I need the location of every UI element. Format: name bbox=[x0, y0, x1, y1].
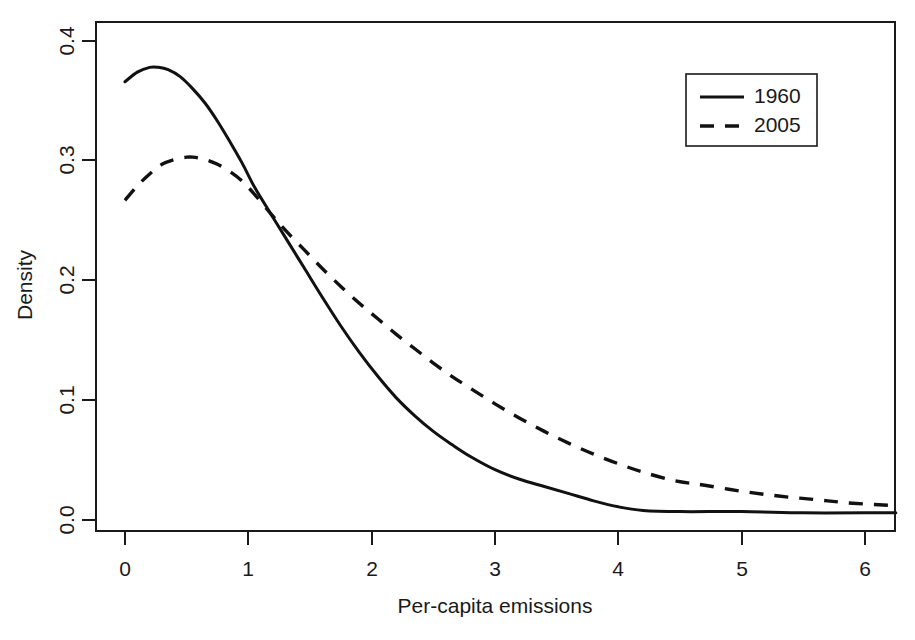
x-tick-label-0: 0 bbox=[119, 557, 131, 580]
x-tick-label-4: 4 bbox=[612, 557, 624, 580]
legend-label-1960: 1960 bbox=[754, 84, 801, 107]
legend-label-2005: 2005 bbox=[754, 113, 801, 136]
y-axis-title: Density bbox=[13, 249, 36, 320]
y-tick-label-0: 0.0 bbox=[55, 505, 78, 534]
x-tick-label-2: 2 bbox=[366, 557, 378, 580]
x-axis-tick-labels: 0 1 2 3 4 5 6 bbox=[119, 557, 871, 580]
x-tick-label-1: 1 bbox=[242, 557, 254, 580]
x-tick-label-3: 3 bbox=[489, 557, 501, 580]
y-tick-label-2: 0.2 bbox=[55, 265, 78, 294]
x-axis-title: Per-capita emissions bbox=[398, 594, 593, 617]
x-axis-ticks bbox=[125, 531, 865, 545]
series-line-2005 bbox=[125, 157, 896, 506]
y-tick-label-1: 0.1 bbox=[55, 385, 78, 414]
density-chart-figure: 0 1 2 3 4 5 6 0.0 0.1 0.2 0.3 0.4 Per-ca… bbox=[0, 0, 915, 640]
y-tick-label-3: 0.3 bbox=[55, 145, 78, 174]
chart-legend[interactable]: 1960 2005 bbox=[686, 74, 817, 146]
chart-canvas: 0 1 2 3 4 5 6 0.0 0.1 0.2 0.3 0.4 Per-ca… bbox=[0, 0, 915, 640]
y-tick-label-4: 0.4 bbox=[55, 26, 78, 56]
x-tick-label-6: 6 bbox=[859, 557, 871, 580]
y-axis-tick-labels: 0.0 0.1 0.2 0.3 0.4 bbox=[55, 26, 78, 535]
x-tick-label-5: 5 bbox=[736, 557, 748, 580]
y-axis-ticks bbox=[82, 41, 96, 520]
